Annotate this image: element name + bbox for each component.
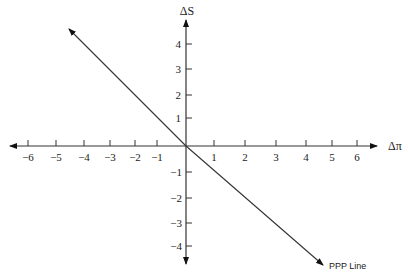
svg-text:−6: −6 — [22, 151, 34, 163]
svg-text:−3: −3 — [170, 217, 182, 229]
svg-text:−2: −2 — [170, 192, 182, 204]
ppp-line-upper — [69, 29, 186, 146]
svg-text:2: 2 — [242, 151, 248, 163]
ppp-line-lower — [186, 146, 323, 265]
svg-text:6: 6 — [354, 151, 360, 163]
y-axis-label: ΔS — [180, 4, 194, 18]
svg-text:−1: −1 — [170, 166, 182, 178]
ppp-line-label: PPP Line — [329, 261, 366, 271]
svg-text:4: 4 — [303, 151, 309, 163]
y-tick-labels: 4 3 2 1 −1 −2 −3 −4 — [170, 38, 182, 252]
svg-text:3: 3 — [273, 151, 279, 163]
x-tick-labels: −6 −5 −4 −3 −2 −1 1 2 3 4 5 6 — [22, 151, 360, 163]
svg-text:−4: −4 — [78, 151, 90, 163]
svg-text:−2: −2 — [129, 151, 141, 163]
svg-text:2: 2 — [176, 89, 182, 101]
svg-text:1: 1 — [176, 112, 182, 124]
x-axis-label: Δπ — [388, 139, 402, 153]
svg-text:1: 1 — [211, 151, 217, 163]
svg-text:−5: −5 — [50, 151, 62, 163]
svg-text:−1: −1 — [151, 151, 163, 163]
svg-text:4: 4 — [176, 38, 182, 50]
svg-text:5: 5 — [329, 151, 335, 163]
svg-text:−3: −3 — [104, 151, 116, 163]
svg-text:3: 3 — [176, 63, 182, 75]
svg-text:−4: −4 — [170, 240, 182, 252]
x-ticks — [28, 140, 357, 146]
y-ticks — [186, 44, 192, 246]
ppp-chart: −6 −5 −4 −3 −2 −1 1 2 3 4 5 6 4 3 2 1 −1… — [0, 0, 408, 278]
